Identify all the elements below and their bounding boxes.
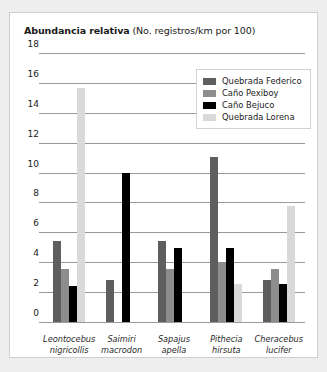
legend-label: Quebrada Lorena — [222, 112, 295, 122]
legend-item: Caño Bejuco — [203, 99, 302, 111]
chart-title-rest: (No. registros/km por 100) — [130, 25, 256, 36]
x-axis-category-label: Sapajusapella — [158, 334, 190, 356]
bar — [271, 269, 279, 323]
bar — [279, 284, 287, 323]
chart-panel: Abundancia relativa (No. registros/km po… — [9, 12, 318, 358]
bar — [122, 173, 130, 323]
bar — [226, 248, 234, 323]
bar — [61, 269, 69, 323]
y-axis-tick-label: 18 — [28, 39, 39, 49]
x-axis-category-label-line: macrodon — [101, 345, 142, 356]
legend-item: Caño Pexiboy — [203, 87, 302, 99]
bar-group: Saimirimacrodon — [95, 54, 147, 323]
y-axis-tick-label: 6 — [33, 218, 39, 228]
bar-group: Sapajusapella — [148, 54, 200, 323]
y-axis-tick-label: 0 — [33, 308, 39, 318]
y-axis-tick-label: 12 — [28, 129, 39, 139]
bar-group: Leontocebusnigricollis — [43, 54, 95, 323]
bar — [158, 241, 166, 323]
legend-label: Caño Bejuco — [222, 100, 274, 110]
y-axis-tick-label: 4 — [33, 248, 39, 258]
x-axis-category-label-line: lucifer — [255, 345, 304, 356]
y-axis-tick-label: 2 — [33, 278, 39, 288]
x-axis-category-label-line: apella — [158, 345, 190, 356]
x-axis-category-label: Cheracebuslucifer — [255, 334, 304, 356]
legend-swatch — [203, 90, 216, 97]
legend-swatch — [203, 78, 216, 85]
legend-swatch — [203, 102, 216, 109]
legend-item: Quebrada Federico — [203, 75, 302, 87]
legend-label: Caño Pexiboy — [222, 88, 279, 98]
chart-title: Abundancia relativa (No. registros/km po… — [24, 25, 255, 36]
x-axis-category-label: Pitheciahirsuta — [210, 334, 242, 356]
bar — [174, 248, 182, 323]
bar — [263, 280, 271, 323]
chart-title-strong: Abundancia relativa — [24, 25, 130, 36]
bar — [69, 286, 77, 323]
x-axis-category-label-line: Leontocebus — [43, 334, 95, 345]
legend: Quebrada FedericoCaño PexiboyCaño Bejuco… — [196, 69, 311, 129]
x-axis-category-label-line: Cheracebus — [255, 334, 304, 345]
x-axis-category-label-line: Sapajus — [158, 334, 190, 345]
bar — [166, 269, 174, 323]
x-axis-category-label: Saimirimacrodon — [101, 334, 142, 356]
legend-label: Quebrada Federico — [222, 76, 302, 86]
y-axis-tick-label: 16 — [28, 69, 39, 79]
x-axis-category-label-line: nigricollis — [43, 345, 95, 356]
x-axis-category-label-line: Pithecia — [210, 334, 242, 345]
x-axis-line — [43, 322, 305, 323]
y-axis-tick-label: 8 — [33, 188, 39, 198]
x-axis-category-label: Leontocebusnigricollis — [43, 334, 95, 356]
bar — [77, 88, 85, 323]
bar — [234, 284, 242, 323]
x-axis-category-label-line: hirsuta — [210, 345, 242, 356]
bar — [53, 241, 61, 323]
legend-item: Quebrada Lorena — [203, 111, 302, 123]
legend-swatch — [203, 114, 216, 121]
bar — [287, 206, 295, 323]
bar — [210, 157, 218, 323]
x-axis-category-label-line: Saimiri — [101, 334, 142, 345]
bar — [106, 280, 114, 323]
y-axis-tick-label: 10 — [28, 159, 39, 169]
bar — [218, 262, 226, 323]
y-axis-tick-label: 14 — [28, 99, 39, 109]
